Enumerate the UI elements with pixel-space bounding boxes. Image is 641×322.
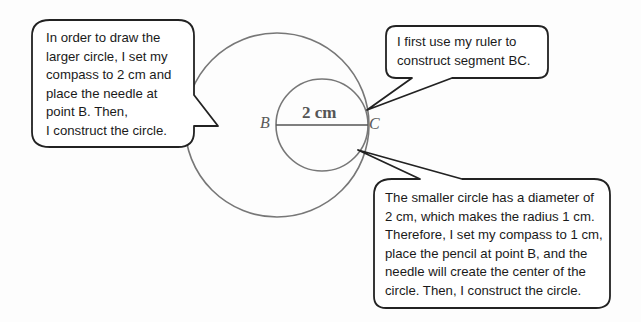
- bottom-right-callout-line-1: The smaller circle has a diameter of: [385, 189, 603, 208]
- bottom-right-callout-line-3: Therefore, I set my compass to 1 cm,: [385, 226, 603, 245]
- left-callout-line-3: compass to 2 cm and: [46, 66, 171, 85]
- left-callout-text: In order to draw the larger circle, I se…: [46, 29, 171, 140]
- point-c-label: C: [369, 115, 380, 133]
- left-callout-line-4: place the needle at: [46, 85, 171, 104]
- point-b-label: B: [260, 114, 270, 132]
- left-callout-line-5: point B. Then,: [46, 103, 171, 122]
- bottom-right-callout-text: The smaller circle has a diameter of 2 c…: [385, 189, 603, 300]
- left-callout-line-1: In order to draw the: [46, 29, 171, 48]
- top-right-callout-text: I first use my ruler to construct segmen…: [397, 33, 530, 70]
- top-right-callout-line-2: construct segment BC.: [397, 52, 530, 71]
- left-callout-line-2: larger circle, I set my: [46, 48, 171, 67]
- segment-length-label: 2 cm: [302, 103, 336, 123]
- bottom-right-callout-line-2: 2 cm, which makes the radius 1 cm.: [385, 208, 603, 227]
- left-callout-line-6: I construct the circle.: [46, 122, 171, 141]
- top-right-callout-line-1: I first use my ruler to: [397, 33, 530, 52]
- bottom-right-callout-line-6: circle. Then, I construct the circle.: [385, 282, 603, 301]
- bottom-right-callout-line-5: needle will create the center of the: [385, 263, 603, 282]
- bottom-right-callout-line-4: place the pencil at point B, and the: [385, 245, 603, 264]
